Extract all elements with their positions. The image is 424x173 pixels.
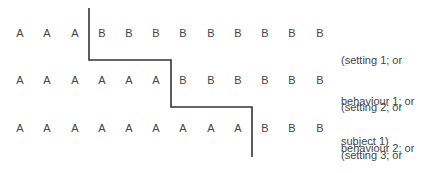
phase-cell: A (67, 27, 83, 39)
phase-cell: A (94, 74, 110, 86)
phase-cell: A (12, 27, 28, 39)
row-label-2-line-1: (setting 2; or (341, 101, 414, 115)
phase-cell: A (148, 122, 164, 134)
phase-cell: A (121, 74, 137, 86)
phase-cell: A (67, 74, 83, 86)
phase-cell: A (67, 122, 83, 134)
phase-cell: B (203, 27, 219, 39)
phase-cell: A (94, 122, 110, 134)
phase-cell: A (148, 74, 164, 86)
phase-cell: A (12, 122, 28, 134)
phase-cell: B (175, 74, 191, 86)
phase-cell: A (230, 122, 246, 134)
phase-cell: A (39, 74, 55, 86)
row-label-1-line-1: (setting 1; or (341, 54, 414, 68)
row-label-3: (setting 3; or behaviour 3; or subject 3… (341, 122, 414, 173)
phase-cell: B (230, 27, 246, 39)
phase-cell: B (284, 122, 300, 134)
phase-cell: A (175, 122, 191, 134)
phase-cell: B (257, 27, 273, 39)
phase-cell: B (312, 74, 328, 86)
phase-cell: B (257, 74, 273, 86)
phase-cell: A (203, 122, 219, 134)
phase-cell: B (284, 74, 300, 86)
phase-cell: B (312, 122, 328, 134)
phase-cell: A (121, 122, 137, 134)
phase-cell: A (39, 27, 55, 39)
phase-cell: B (312, 27, 328, 39)
phase-cell: B (148, 27, 164, 39)
phase-cell: B (94, 27, 110, 39)
phase-cell: B (257, 122, 273, 134)
phase-cell: B (203, 74, 219, 86)
phase-cell: B (175, 27, 191, 39)
phase-cell: A (39, 122, 55, 134)
phase-cell: B (230, 74, 246, 86)
phase-cell: B (121, 27, 137, 39)
row-label-3-line-1: (setting 3; or (341, 149, 414, 163)
phase-cell: B (284, 27, 300, 39)
phase-cell: A (12, 74, 28, 86)
